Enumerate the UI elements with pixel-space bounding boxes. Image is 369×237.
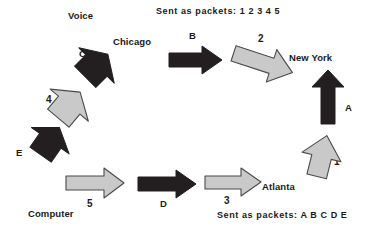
arrow-b bbox=[168, 44, 224, 76]
arrow-label-5: 5 bbox=[87, 199, 93, 209]
arrow-5 bbox=[64, 166, 126, 200]
caption-top-packets: Sent as packets: 1 2 3 4 5 bbox=[156, 7, 280, 16]
arrow-label-b: B bbox=[189, 31, 196, 41]
arrow-label-d: D bbox=[160, 199, 167, 209]
caption-bottom-packets: Sent as packets: A B C D E bbox=[217, 211, 347, 220]
label-atlanta: Atlanta bbox=[262, 182, 295, 192]
arrow-1 bbox=[298, 124, 346, 186]
arrow-2 bbox=[228, 42, 298, 84]
arrow-e bbox=[21, 115, 75, 173]
arrow-3 bbox=[203, 166, 263, 198]
label-computer: Computer bbox=[28, 209, 74, 219]
packet-switching-diagram: Voice Chicago New York Atlanta Computer … bbox=[0, 0, 369, 237]
arrow-d bbox=[136, 168, 198, 200]
arrow-a bbox=[310, 68, 346, 126]
label-voice: Voice bbox=[68, 11, 93, 21]
arrow-label-a: A bbox=[345, 103, 352, 113]
